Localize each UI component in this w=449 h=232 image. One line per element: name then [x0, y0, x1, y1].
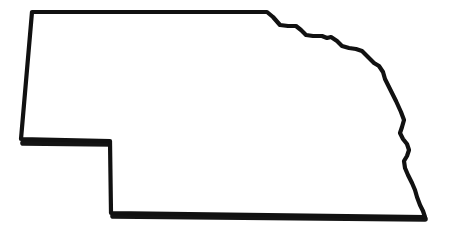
map-container: Nebraska state outline map Nebraska stat… — [0, 0, 449, 232]
state-outline-map: Nebraska state outline map — [0, 0, 449, 232]
panhandle-notch-shadow — [23, 143, 112, 144]
